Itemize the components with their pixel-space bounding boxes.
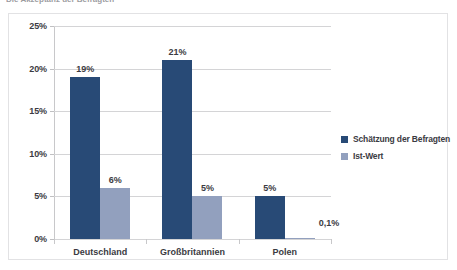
category-group-grossbritannien: 21% 5% Großbritannien (146, 26, 238, 239)
chart-container: 25% 20% 15% 10% 5% 0% 19% 6% De (8, 13, 448, 260)
category-separator (331, 239, 332, 244)
chart-legend: Schätzung der Befragten Ist-Wert (341, 134, 451, 168)
y-axis-label-10: 10% (29, 149, 47, 159)
bar-value-label: 6% (109, 175, 122, 185)
legend-swatch-icon (341, 136, 348, 143)
plot-area: 25% 20% 15% 10% 5% 0% 19% 6% De (54, 26, 331, 239)
y-axis-label-15: 15% (29, 106, 47, 116)
bar-polen-istwert[interactable]: 0,1% (285, 238, 315, 239)
bar-deutschland-istwert[interactable]: 6% (100, 188, 130, 239)
legend-item-schaetzung[interactable]: Schätzung der Befragten (341, 134, 451, 144)
category-group-polen: 5% 0,1% Polen (239, 26, 331, 239)
bar-value-label: 5% (201, 183, 214, 193)
bar-value-label: 0,1% (319, 218, 340, 228)
bar-pair-polen: 5% 0,1% (239, 26, 331, 239)
bar-value-label: 5% (263, 183, 276, 193)
bar-grossbritannien-istwert[interactable]: 5% (192, 196, 222, 239)
bar-grossbritannien-schaetzung[interactable]: 21% (162, 60, 192, 239)
category-separator (54, 239, 55, 244)
bar-pair-deutschland: 19% 6% (54, 26, 146, 239)
bar-deutschland-schaetzung[interactable]: 19% (70, 77, 100, 239)
legend-label: Schätzung der Befragten (353, 134, 450, 144)
x-axis-line (54, 239, 331, 240)
legend-swatch-icon (341, 153, 348, 160)
y-axis-label-25: 25% (29, 21, 47, 31)
bar-polen-schaetzung[interactable]: 5% (255, 196, 285, 239)
category-separator (239, 239, 240, 244)
bar-value-label: 19% (76, 64, 94, 74)
x-axis-label-grossbritannien: Großbritannien (146, 247, 238, 257)
category-separator (146, 239, 147, 244)
x-axis-label-polen: Polen (239, 247, 331, 257)
y-axis-label-5: 5% (34, 191, 47, 201)
document-title-fragment: Die Akzeptanz der Befragten (6, 0, 206, 7)
bar-pair-grossbritannien: 21% 5% (146, 26, 238, 239)
y-axis-label-20: 20% (29, 64, 47, 74)
category-group-deutschland: 19% 6% Deutschland (54, 26, 146, 239)
legend-item-istwert[interactable]: Ist-Wert (341, 151, 451, 161)
bar-value-label: 21% (168, 47, 186, 57)
y-axis-label-0: 0% (34, 234, 47, 244)
x-axis-label-deutschland: Deutschland (54, 247, 146, 257)
legend-label: Ist-Wert (353, 151, 383, 161)
